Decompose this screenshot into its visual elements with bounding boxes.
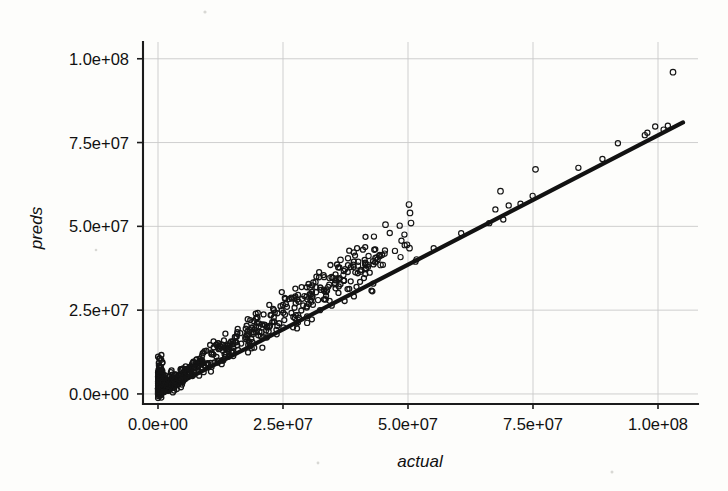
y-tick-label: 5.0e+07	[69, 217, 129, 235]
scatter-plot: 0.0e+002.5e+075.0e+077.5e+071.0e+08 0.0e…	[0, 0, 728, 491]
x-tick-label: 5.0e+07	[378, 415, 438, 433]
x-tick-label: 1.0e+08	[628, 415, 688, 433]
y-tick-label: 7.5e+07	[69, 134, 129, 152]
x-tick-label: 2.5e+07	[253, 415, 313, 433]
x-tick-label: 7.5e+07	[503, 415, 563, 433]
x-tick-label: 0.0e+00	[128, 415, 188, 433]
y-tick-label: 1.0e+08	[69, 50, 129, 68]
y-tick-label: 2.5e+07	[69, 301, 129, 319]
y-tick-label: 0.0e+00	[69, 385, 129, 403]
x-axis-title: actual	[397, 452, 444, 471]
y-axis-title: preds	[27, 206, 46, 250]
figure-canvas: 0.0e+002.5e+075.0e+077.5e+071.0e+08 0.0e…	[0, 0, 728, 491]
